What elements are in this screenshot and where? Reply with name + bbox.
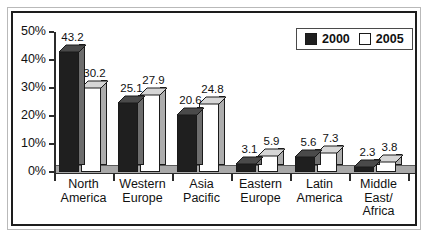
bar-side-face xyxy=(79,44,85,165)
bar-2000-5 xyxy=(354,166,374,172)
y-tick-label-30: 30% xyxy=(12,81,46,93)
category-label-line: Pacific xyxy=(172,192,231,206)
bar-2000-1 xyxy=(118,102,138,172)
bar-top-face xyxy=(81,80,108,87)
bar-top-face xyxy=(354,159,381,166)
legend-swatch-icon xyxy=(359,33,371,45)
bar-side-face xyxy=(160,87,166,165)
bar-2000-0 xyxy=(59,51,79,172)
category-separator xyxy=(231,174,233,181)
bar-value-label: 5.6 xyxy=(289,136,329,148)
bar-2000-3 xyxy=(236,163,256,172)
bar-front-face xyxy=(118,102,138,172)
category-separator xyxy=(172,174,174,181)
bar-value-label: 2.3 xyxy=(348,146,388,158)
category-separator xyxy=(349,174,351,181)
bar-value-label: 3.1 xyxy=(230,143,270,155)
bar-side-face xyxy=(101,80,107,165)
bar-value-label: 24.8 xyxy=(193,83,233,95)
category-label-line: America xyxy=(290,192,349,206)
bar-top-face xyxy=(236,156,263,163)
category-label-0: NorthAmerica xyxy=(54,178,113,205)
legend-entry-2000[interactable]: 2000 xyxy=(305,33,350,46)
category-label-line: Africa xyxy=(349,205,408,219)
bar-top-face xyxy=(59,44,86,51)
y-tick-label-40: 40% xyxy=(12,53,46,65)
bar-top-face xyxy=(177,107,204,114)
bar-2000-4 xyxy=(295,156,315,172)
legend-label: 2005 xyxy=(376,33,404,46)
y-tick-label-20: 20% xyxy=(12,109,46,121)
bar-front-face xyxy=(59,51,79,172)
bar-value-label: 20.6 xyxy=(171,94,211,106)
category-label-line: North xyxy=(54,178,113,192)
chart-legend: 20002005 xyxy=(296,28,413,50)
bar-value-label: 25.1 xyxy=(112,82,152,94)
bar-top-face xyxy=(118,95,145,102)
category-label-3: EasternEurope xyxy=(231,178,290,205)
bar-top-face xyxy=(295,149,322,156)
y-tick-mark xyxy=(49,171,54,173)
y-tick-mark xyxy=(49,115,54,117)
category-label-line: Europe xyxy=(231,192,290,206)
y-tick-mark xyxy=(49,87,54,89)
bar-front-face xyxy=(177,114,197,172)
bar-front-face xyxy=(295,156,315,172)
bar-chart: 0%10%20%30%40%50% 30.243.227.925.124.820… xyxy=(0,0,429,238)
y-tick-mark xyxy=(49,59,54,61)
category-separator xyxy=(408,174,410,181)
legend-swatch-icon xyxy=(305,33,317,45)
bar-value-label: 43.2 xyxy=(53,31,93,43)
y-tick-mark xyxy=(49,143,54,145)
category-label-line: America xyxy=(54,192,113,206)
category-label-4: LatinAmerica xyxy=(290,178,349,205)
category-separator xyxy=(113,174,115,181)
y-tick-label-0: 0% xyxy=(12,165,46,177)
y-axis-line xyxy=(54,32,56,174)
bar-side-face xyxy=(138,95,144,165)
bar-2000-2 xyxy=(177,114,197,172)
category-label-2: AsiaPacific xyxy=(172,178,231,205)
category-separator xyxy=(290,174,292,181)
y-tick-label-50: 50% xyxy=(12,25,46,37)
bar-side-face xyxy=(219,96,225,165)
category-label-5: MiddleEast/Africa xyxy=(349,178,408,219)
category-label-line: Asia xyxy=(172,178,231,192)
category-label-line: Europe xyxy=(113,192,172,206)
category-label-line: Western xyxy=(113,178,172,192)
category-label-line: Eastern xyxy=(231,178,290,192)
category-label-line: Latin xyxy=(290,178,349,192)
category-label-1: WesternEurope xyxy=(113,178,172,205)
category-label-line: Middle xyxy=(349,178,408,192)
y-tick-label-10: 10% xyxy=(12,137,46,149)
legend-label: 2000 xyxy=(322,33,350,46)
legend-entry-2005[interactable]: 2005 xyxy=(359,33,404,46)
category-label-line: East/ xyxy=(349,192,408,206)
category-separator xyxy=(54,174,56,181)
